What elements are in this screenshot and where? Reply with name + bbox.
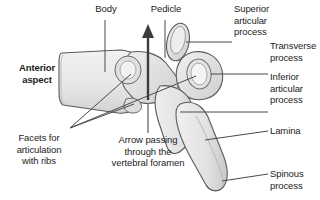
inferior-costal-facet-shape — [124, 98, 142, 113]
label-anterior-aspect: Anterior aspect — [6, 62, 68, 85]
label-facets-for-articulation: Facets for articulation with ribs — [2, 132, 76, 167]
label-arrow-note: Arrow passing through the vertebral fora… — [92, 134, 204, 169]
label-spinous-process: Spinous process — [270, 168, 320, 191]
label-inferior-articular-process: Inferior articular process — [270, 71, 320, 106]
label-body: Body — [80, 3, 132, 15]
anatomy-figure: Body Pedicle Superior articular process … — [0, 0, 320, 200]
label-transverse-process: Transverse process — [270, 40, 320, 63]
label-superior-articular-process: Superior articular process — [234, 3, 318, 38]
label-lamina: Lamina — [270, 125, 320, 137]
label-pedicle: Pedicle — [139, 3, 193, 15]
leader-spinous-process — [222, 174, 268, 181]
